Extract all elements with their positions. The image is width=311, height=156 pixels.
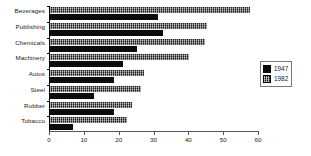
bar-1947-publishing [50, 30, 163, 36]
category-label-publishing: Publishing [0, 23, 45, 30]
bar-1947-chemicals [50, 46, 137, 52]
bar-1947-tobacco [50, 124, 73, 130]
x-axis: 0 10 20 30 40 50 60 [49, 132, 260, 152]
category-label-beverages: Beverages [0, 7, 45, 14]
x-tick [119, 132, 120, 135]
bar-1982-machinery [50, 54, 189, 60]
legend-swatch-icon-1982 [263, 75, 271, 83]
x-tick-label-0: 0 [37, 136, 61, 144]
legend-label-1982: 1982 [274, 75, 288, 83]
bar-group-tobacco [50, 116, 259, 132]
x-tick [223, 132, 224, 135]
x-tick-label-30: 30 [142, 136, 166, 144]
bar-1982-chemicals [50, 39, 205, 45]
x-tick-label-10: 10 [72, 136, 96, 144]
x-tick-label-60: 60 [246, 136, 270, 144]
legend-label-1947: 1947 [274, 65, 288, 73]
legend-swatch-icon-1947 [263, 65, 271, 73]
bar-group-machinery [50, 53, 259, 69]
bar-group-publishing [50, 22, 259, 38]
bar-chart: Beverages Publishing Chemicals Machinery… [0, 0, 311, 156]
category-label-tobacco: Tobacco [0, 117, 45, 124]
bar-group-chemicals [50, 38, 259, 54]
x-tick [258, 132, 259, 135]
x-tick [84, 132, 85, 135]
bar-1982-steel [50, 86, 141, 92]
category-label-machinery: Machinery [0, 54, 45, 61]
legend-entry-1982: 1982 [263, 74, 288, 84]
bar-1982-beverages [50, 7, 250, 13]
plot-area [49, 6, 259, 132]
legend-entry-1947: 1947 [263, 64, 288, 74]
bar-1982-autos [50, 70, 144, 76]
x-tick [49, 132, 50, 135]
bar-group-steel [50, 85, 259, 101]
bar-1982-rubber [50, 102, 132, 108]
bar-group-rubber [50, 101, 259, 117]
bar-group-autos [50, 69, 259, 85]
x-tick [188, 132, 189, 135]
category-label-chemicals: Chemicals [0, 39, 45, 46]
bar-1947-beverages [50, 14, 158, 20]
x-tick [154, 132, 155, 135]
bar-1947-machinery [50, 61, 123, 67]
category-axis: Beverages Publishing Chemicals Machinery… [0, 6, 48, 132]
x-tick-label-50: 50 [211, 136, 235, 144]
bar-1982-tobacco [50, 117, 127, 123]
category-label-steel: Steel [0, 86, 45, 93]
bar-group-beverages [50, 6, 259, 22]
bar-1947-autos [50, 77, 114, 83]
x-tick-label-40: 40 [176, 136, 200, 144]
category-label-autos: Autos [0, 70, 45, 77]
bar-1947-rubber [50, 109, 114, 115]
category-label-rubber: Rubber [0, 102, 45, 109]
bar-1982-publishing [50, 23, 207, 29]
x-tick-label-20: 20 [107, 136, 131, 144]
legend: 1947 1982 [260, 61, 292, 87]
bar-1947-steel [50, 93, 94, 99]
